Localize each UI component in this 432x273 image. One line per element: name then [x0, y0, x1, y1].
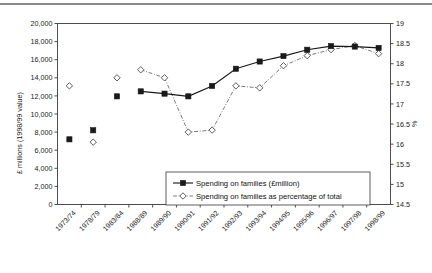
y2-axis-ticks: 14.51515.51616.51717.51818.519 [391, 19, 411, 209]
y-tick-label: 12,000 [31, 92, 53, 101]
y-tick-label: 0 [49, 200, 53, 209]
y-axis-title-group: £ millions (1998/99 value) [15, 92, 24, 174]
y-tick-label: 18,000 [31, 37, 53, 46]
data-point-marker [138, 89, 143, 94]
x-tick-label: 1992/93 [221, 209, 245, 233]
y2-tick-label: 19 [396, 19, 404, 28]
y2-tick-label: 15.5 [396, 160, 410, 169]
x-tick-label: 1993/94 [244, 209, 268, 233]
data-point-marker [114, 75, 120, 81]
y2-tick-label: 14.5 [396, 200, 410, 209]
y-tick-label: 4,000 [35, 164, 53, 173]
x-tick-label: 1995/96 [292, 209, 316, 233]
data-point-marker [280, 63, 286, 69]
data-point-marker [161, 75, 167, 81]
x-tick-label: 1990/91 [173, 209, 197, 233]
data-point-marker [66, 83, 72, 89]
x-tick-label: 1997/98 [339, 209, 363, 233]
y2-tick-label: 17 [396, 100, 404, 109]
data-point-marker [305, 47, 310, 52]
x-tick-label: 1996/97 [316, 209, 340, 233]
x-tick-label: 1998/99 [363, 209, 387, 233]
data-point-marker [114, 94, 119, 99]
chart-screenshot: £ millions (1998/99 value) % 02,0004,000… [0, 0, 432, 273]
x-tick-label: 1973/74 [54, 209, 78, 233]
y2-tick-label: 18 [396, 59, 404, 68]
y2-tick-label: 16 [396, 140, 404, 149]
y-axis-title: £ millions (1998/99 value) [15, 92, 24, 174]
y2-tick-label: 15 [396, 180, 404, 189]
data-point-marker [375, 50, 381, 56]
x-tick-label: 1988/89 [125, 209, 149, 233]
y-tick-label: 2,000 [35, 182, 53, 191]
x-tick-label: 1983/84 [102, 209, 126, 233]
data-point-marker [328, 44, 333, 49]
line-chart: £ millions (1998/99 value) % 02,0004,000… [0, 0, 432, 273]
y2-tick-label: 18.5 [396, 39, 410, 48]
y-axis-ticks: 02,0004,0006,0008,00010,00012,00014,0001… [31, 19, 58, 209]
x-tick-label: 1994/95 [268, 209, 292, 233]
legend-label[interactable]: Spending on families as percentage of to… [196, 192, 342, 201]
data-point-marker [233, 83, 239, 89]
y-tick-label: 10,000 [31, 110, 53, 119]
data-point-marker [352, 44, 357, 49]
x-tick-label: 1989/90 [149, 209, 173, 233]
chart-container: £ millions (1998/99 value) % 02,0004,000… [0, 0, 432, 273]
y2-tick-label: 16.5 [396, 120, 410, 129]
data-point-marker [186, 94, 191, 99]
y-tick-label: 6,000 [35, 146, 53, 155]
data-point-marker [281, 53, 286, 58]
series-spending [67, 44, 381, 142]
y-tick-label: 16,000 [31, 55, 53, 64]
x-axis-ticks: 1973/741978/791983/841988/891989/901990/… [54, 205, 387, 234]
data-point-marker [162, 91, 167, 96]
y-tick-label: 14,000 [31, 73, 53, 82]
x-tick-label: 1978/79 [78, 209, 102, 233]
y2-axis-title-group: % [410, 120, 419, 127]
data-point-marker [256, 85, 262, 91]
data-point-marker [233, 66, 238, 71]
x-tick-label: 1991/92 [197, 209, 221, 233]
y-tick-label: 20,000 [31, 19, 53, 28]
chart-legend[interactable]: Spending on families (£million)Spending … [166, 172, 370, 205]
data-point-marker [90, 139, 96, 145]
legend-label[interactable]: Spending on families (£million) [196, 179, 300, 188]
data-point-marker [210, 83, 215, 88]
data-point-marker [209, 127, 215, 133]
y-tick-label: 8,000 [35, 128, 53, 137]
data-point-marker [185, 129, 191, 135]
data-point-marker [304, 52, 310, 58]
data-point-marker [67, 137, 72, 142]
y2-axis-title: % [410, 120, 419, 127]
data-point-marker [91, 128, 96, 133]
series-percentage [66, 42, 382, 145]
data-point-marker [376, 45, 381, 50]
y2-tick-label: 17.5 [396, 79, 410, 88]
legend-marker [180, 180, 185, 185]
data-point-marker [257, 59, 262, 64]
data-point-marker [138, 67, 144, 73]
